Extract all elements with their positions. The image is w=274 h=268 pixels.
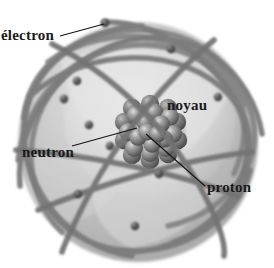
electron-dot: [73, 77, 81, 85]
electron-dot: [167, 45, 175, 53]
label-proton: proton: [207, 180, 251, 195]
electron-dot: [214, 93, 222, 101]
electron-dot: [101, 19, 110, 28]
label-noyau: noyau: [167, 98, 207, 113]
atom-diagram: électron noyau neutron proton: [0, 0, 274, 268]
electron-dot: [60, 95, 68, 103]
electron-dot: [155, 170, 163, 178]
electron-dot: [131, 222, 139, 230]
electron-dot: [106, 142, 114, 150]
label-electron: électron: [1, 28, 54, 43]
label-neutron: neutron: [22, 145, 74, 160]
electron-dot: [74, 190, 82, 198]
electron-dot: [85, 121, 93, 129]
